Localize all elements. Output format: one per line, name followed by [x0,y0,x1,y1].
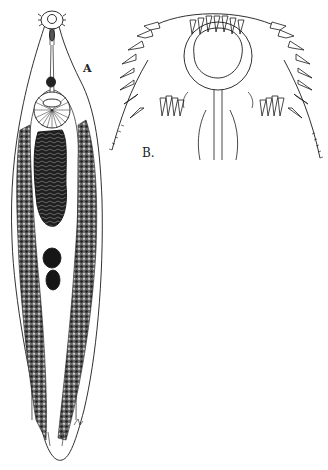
figure-canvas [0,0,328,470]
corner-spines-top [190,16,244,34]
testis-posterior [46,270,60,290]
panel-a-whole-body [11,11,102,460]
panel-label-b: B. [142,146,155,160]
oral-sucker [38,11,66,29]
panel-label-a: A [83,62,92,75]
uterus [34,130,66,226]
testis-anterior [43,248,61,268]
ventral-sucker [34,92,70,128]
collar-spines [120,22,312,118]
panel-b-oral-detail [109,14,323,160]
